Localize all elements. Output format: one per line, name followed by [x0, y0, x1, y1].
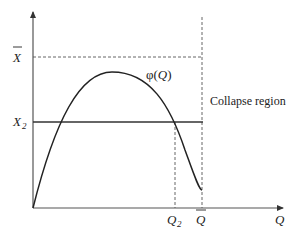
x-label-q-2: Q 2 — [167, 212, 182, 229]
svg-text:X: X — [12, 50, 22, 65]
svg-text:φ(Q): φ(Q) — [146, 67, 172, 82]
curve-label-func: φ( — [146, 67, 158, 82]
curve-label: φ(Q) — [146, 67, 172, 82]
svg-text:2: 2 — [177, 219, 182, 229]
x-label-q-bar: Q — [196, 210, 206, 227]
x-axis-label: Q — [275, 212, 285, 227]
y-label-x-bar: X — [12, 47, 22, 65]
svg-text:2: 2 — [22, 121, 27, 131]
phi-curve — [33, 72, 202, 208]
collapse-region-label: Collapse region — [210, 94, 286, 108]
diagram-canvas: X X 2 Q 2 Q Q φ(Q) Collapse region — [0, 0, 298, 243]
svg-text:X: X — [12, 114, 22, 129]
svg-text:Q: Q — [196, 212, 206, 227]
y-label-x-2: X 2 — [12, 114, 27, 131]
svg-text:Q: Q — [167, 212, 177, 227]
curve-label-close: ) — [167, 67, 171, 82]
